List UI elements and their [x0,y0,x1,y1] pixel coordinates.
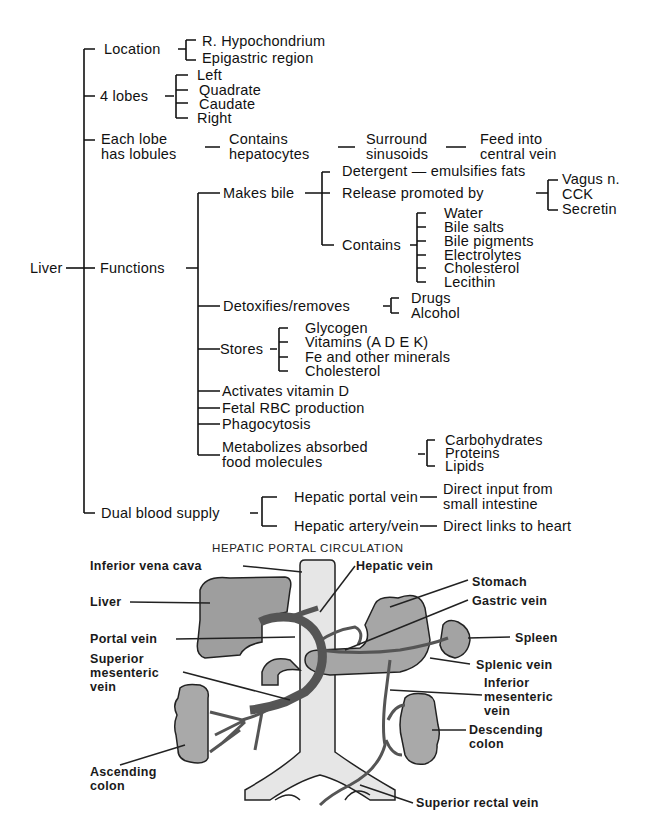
node-portal-desc-line1: Direct input from [443,482,553,497]
label-superior-rectal-vein: Superior rectal vein [416,796,539,810]
label-spleen: Spleen [515,631,558,645]
node-artery-desc: Direct links to heart [443,519,571,534]
label-gastric-vein: Gastric vein [472,594,547,608]
liver-shape [197,577,291,658]
ivc-shape [245,560,395,800]
chain-contains-line1: Contains [229,132,309,147]
label-ascending-colon: Ascending colon [90,765,157,793]
label-asc-colon-line1: Ascending [90,765,157,779]
node-location: Location [104,42,160,57]
node-alcohol: Alcohol [411,306,460,321]
node-release: Release promoted by [342,186,484,201]
node-phagocytosis: Phagocytosis [222,417,311,432]
label-asc-colon-line2: colon [90,779,157,793]
splenic-vein-shape [318,638,448,653]
label-superior-mesenteric-vein: Superior mesenteric vein [90,652,159,694]
label-desc-colon-line2: colon [469,737,543,751]
spleen-shape [440,621,470,658]
node-liver: Liver [30,261,62,276]
node-4-lobes: 4 lobes [100,89,148,104]
node-drugs: Drugs [411,291,451,306]
chain-contains-line2: hepatocytes [229,147,309,162]
label-desc-colon-line1: Descending [469,723,543,737]
label-splenic-vein: Splenic vein [476,658,553,672]
node-contains: Contains [342,238,401,253]
node-detergent: Detergent — emulsifies fats [342,164,526,179]
node-central-vein: Feed into central vein [480,132,557,162]
label-portal-vein: Portal vein [90,632,157,646]
label-imv-line2: mesenteric [484,690,553,704]
node-detoxifies: Detoxifies/removes [223,299,350,314]
node-cck: CCK [562,187,593,202]
label-hepatic-vein: Hepatic vein [356,559,433,573]
node-lobe-right: Right [197,111,232,126]
node-portal-desc: Direct input from small intestine [443,482,553,512]
node-epigastric: Epigastric region [202,51,313,66]
label-stomach: Stomach [472,575,527,589]
node-hepatic-artery: Hepatic artery/vein [294,519,419,534]
node-each-lobe-line1: Each lobe [101,132,177,147]
label-smv-line3: vein [90,680,159,694]
node-r-hypochondrium: R. Hypochondrium [202,34,325,49]
node-lipids: Lipids [445,459,484,474]
descending-colon-shape [400,694,439,765]
node-activates-vit-d: Activates vitamin D [222,384,349,399]
label-smv-line1: Superior [90,652,159,666]
node-metabolizes-line2: food molecules [222,455,368,470]
label-inferior-mesenteric-vein: Inferior mesenteric vein [484,676,553,718]
gastric-vein-shape [318,627,361,645]
node-lecithin: Lecithin [444,275,496,290]
label-imv-line1: Inferior [484,676,553,690]
node-each-lobe-line2: has lobules [101,147,177,162]
node-metabolizes-line1: Metabolizes absorbed [222,440,368,455]
label-liver: Liver [90,595,121,609]
node-makes-bile: Makes bile [223,186,294,201]
label-inferior-vena-cava: Inferior vena cava [90,559,202,573]
label-descending-colon: Descending colon [469,723,543,751]
label-smv-line2: mesenteric [90,666,159,680]
label-imv-line3: vein [484,704,553,718]
node-fetal-rbc: Fetal RBC production [222,401,365,416]
node-lobe-left: Left [197,68,222,83]
chain-feed-line2: central vein [480,147,557,162]
ascending-colon-shape [175,684,209,762]
node-hepatocytes: Contains hepatocytes [229,132,309,162]
node-cholesterol-store: Cholesterol [305,364,381,379]
node-secretin: Secretin [562,202,617,217]
stomach-shape [305,596,430,675]
hepatic-vein-shape [292,608,318,617]
node-hepatic-portal: Hepatic portal vein [294,490,418,505]
duodenum-shape [262,659,300,685]
node-vagus: Vagus n. [562,172,620,187]
portal-vein-shape [250,617,322,710]
node-metabolizes: Metabolizes absorbed food molecules [222,440,368,470]
node-each-lobe: Each lobe has lobules [101,132,177,162]
chain-feed-line1: Feed into [480,132,557,147]
node-portal-desc-line2: small intestine [443,497,553,512]
chain-surround-line1: Surround [366,132,428,147]
node-dual-blood: Dual blood supply [101,506,220,521]
node-sinusoids: Surround sinusoids [366,132,428,162]
node-stores: Stores [220,342,263,357]
chain-surround-line2: sinusoids [366,147,428,162]
inferior-mesenteric-vein-shape [320,660,390,805]
illustration-title: HEPATIC PORTAL CIRCULATION [212,542,404,554]
node-functions: Functions [100,261,165,276]
node-vitamins: Vitamins (A D E K) [305,335,428,350]
